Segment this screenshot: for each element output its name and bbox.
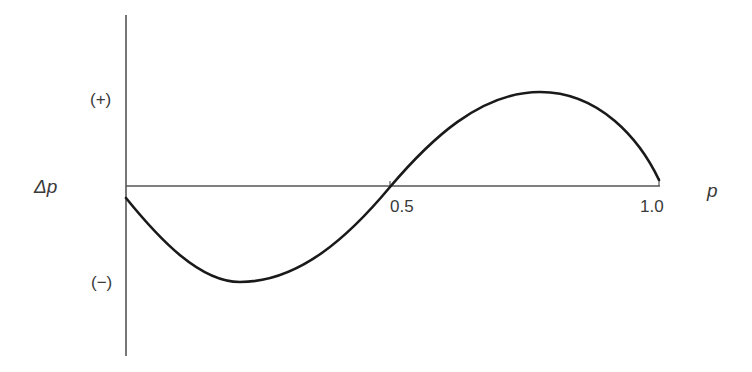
x-tick-label-half: 0.5 xyxy=(390,198,414,215)
x-tick-label-one: 1.0 xyxy=(640,198,664,215)
negative-label: (−) xyxy=(91,274,112,291)
delta-p-curve xyxy=(126,92,659,282)
x-axis-label: p xyxy=(707,181,718,200)
y-axis-label: Δp xyxy=(34,177,57,196)
plot-area xyxy=(0,0,752,372)
positive-label: (+) xyxy=(90,91,111,108)
